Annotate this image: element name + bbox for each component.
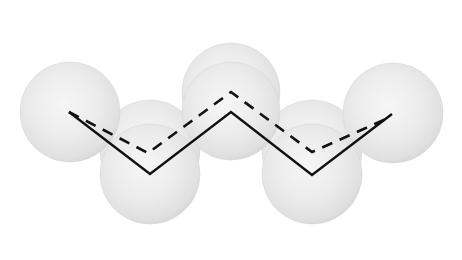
atom-spheres <box>20 43 443 224</box>
molecule-zigzag-diagram <box>0 0 462 260</box>
sphere-right-end <box>343 63 443 163</box>
